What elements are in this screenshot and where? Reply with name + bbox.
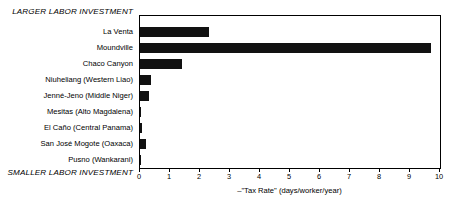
x-axis-tick-label: 3 — [227, 172, 231, 181]
x-axis-tick-label: 0 — [137, 172, 141, 181]
bar — [140, 107, 141, 117]
bar — [140, 123, 142, 133]
bar — [140, 43, 431, 53]
category-label-gutter: LARGER LABOR INVESTMENT La Venta Moundvi… — [0, 0, 136, 178]
category-label-niuheliang: Niuheliang (Western Liao) — [45, 75, 133, 84]
x-axis-tick-label: 8 — [377, 172, 381, 181]
x-axis-tick-label: 9 — [407, 172, 411, 181]
x-axis-tick-label: 7 — [347, 172, 351, 181]
category-label-chaco-canyon: Chaco Canyon — [83, 59, 133, 68]
x-axis-tick-label: 1 — [167, 172, 171, 181]
bar — [140, 75, 151, 85]
category-label-mesitas: Mesitas (Alto Magdalena) — [47, 107, 133, 116]
bars-layer — [140, 16, 440, 168]
annotation-larger-labor-investment: LARGER LABOR INVESTMENT — [12, 7, 133, 16]
x-axis-tick-label: 2 — [197, 172, 201, 181]
category-label-jenne-jeno: Jenné-Jeno (Middle Niger) — [44, 91, 133, 100]
x-axis-title: –"Tax Rate" (days/worker/year) — [139, 186, 440, 196]
category-label-el-cano: El Caño (Central Panama) — [44, 123, 133, 132]
category-label-moundville: Moundville — [97, 43, 133, 52]
bar — [140, 155, 141, 165]
x-axis-tick-label: 10 — [435, 172, 443, 181]
category-label-pusno: Pusno (Wankarani) — [68, 155, 133, 164]
x-axis-tick-label: 5 — [287, 172, 291, 181]
category-label-la-venta: La Venta — [103, 27, 133, 36]
bar-chart: LARGER LABOR INVESTMENT La Venta Moundvi… — [0, 0, 460, 205]
category-label-san-jose-mogote: San José Mogote (Oaxaca) — [41, 139, 133, 148]
x-axis-tick-label: 4 — [257, 172, 261, 181]
bar — [140, 91, 149, 101]
bar — [140, 139, 146, 149]
plot-area — [139, 15, 441, 169]
x-axis-tick-label: 6 — [317, 172, 321, 181]
bar — [140, 59, 182, 69]
x-axis: 012345678910 — [139, 168, 440, 174]
bar — [140, 27, 209, 37]
annotation-smaller-labor-investment: SMALLER LABOR INVESTMENT — [8, 168, 133, 177]
